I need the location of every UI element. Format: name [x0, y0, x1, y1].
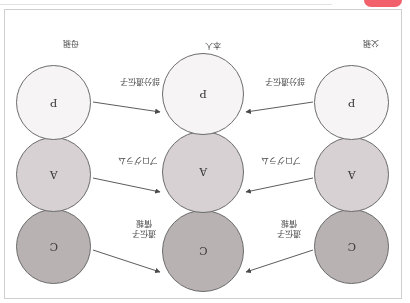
- node-label: A: [347, 168, 355, 181]
- node-label: P: [348, 96, 356, 109]
- node-mother-a[interactable]: A: [16, 137, 91, 212]
- node-label: C: [49, 240, 58, 253]
- node-label: P: [199, 88, 207, 101]
- edge-caption-line2: 情報: [277, 217, 301, 227]
- edge-mother-p-to-self-p: [93, 102, 160, 112]
- node-mother-p[interactable]: P: [16, 65, 91, 140]
- node-label: A: [49, 168, 57, 181]
- edge-caption-line2: 情報: [132, 217, 156, 227]
- diagram-frame: C A P C A P: [4, 9, 402, 299]
- node-label: C: [199, 245, 208, 258]
- node-father-p[interactable]: P: [314, 65, 389, 140]
- edge-mother-c-to-self-c: [93, 250, 160, 272]
- caption-father: 父親: [363, 38, 379, 48]
- edge-mother-a-to-self-a: [93, 178, 160, 192]
- edge-caption-mother-a: プログラム: [118, 155, 158, 165]
- node-father-a[interactable]: A: [314, 137, 389, 212]
- edge-caption-father-a: プログラム: [261, 155, 301, 165]
- node-self-c[interactable]: C: [162, 210, 244, 292]
- edge-caption-father-c: 遺伝子 情報: [277, 217, 301, 238]
- node-self-a[interactable]: A: [162, 131, 244, 213]
- diagram-canvas: C A P C A P: [5, 10, 401, 298]
- node-label: A: [199, 166, 207, 179]
- edge-caption-mother-p: 部分遺伝子: [120, 76, 160, 86]
- edge-father-a-to-self-a: [246, 178, 313, 192]
- edge-caption-father-p: 部分遺伝子: [265, 76, 305, 86]
- screenshot-root: C A P C A P: [0, 0, 410, 303]
- edge-father-p-to-self-p: [246, 102, 313, 112]
- edge-caption-mother-c: 遺伝子 情報: [132, 217, 156, 238]
- top-divider: [0, 4, 332, 5]
- node-mother-c[interactable]: C: [16, 209, 91, 284]
- edge-father-c-to-self-c: [246, 250, 313, 272]
- edge-caption-line1: 遺伝子: [277, 228, 301, 238]
- node-father-c[interactable]: C: [314, 209, 389, 284]
- caption-self: 本人: [205, 40, 221, 50]
- node-self-p[interactable]: P: [162, 53, 244, 135]
- edge-caption-line1: 遺伝子: [132, 228, 156, 238]
- pink-badge[interactable]: [365, 0, 401, 6]
- node-label: C: [347, 240, 356, 253]
- node-label: P: [50, 96, 58, 109]
- caption-mother: 母親: [63, 38, 79, 48]
